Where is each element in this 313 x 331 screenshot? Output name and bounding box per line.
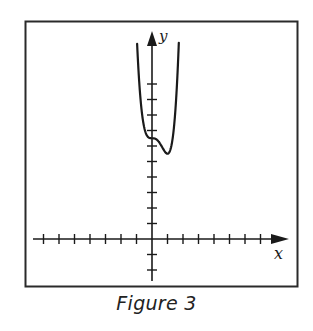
figure-caption: Figure 3 xyxy=(0,292,313,314)
y-axis-label: y xyxy=(158,27,168,45)
x-axis-arrow-icon xyxy=(271,234,289,244)
x-axis-label: x xyxy=(274,244,283,263)
y-axis-arrow-icon xyxy=(147,31,157,46)
plot-frame xyxy=(26,22,298,287)
function-curve xyxy=(137,43,179,154)
figure-plot: x y xyxy=(0,0,313,331)
axes xyxy=(33,31,289,281)
